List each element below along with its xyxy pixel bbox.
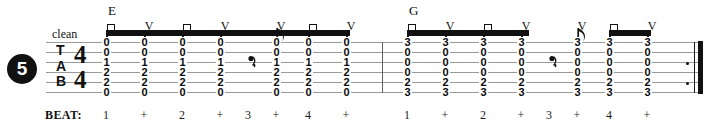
downstroke-icon bbox=[107, 24, 115, 30]
beat-label: 4 bbox=[604, 108, 614, 123]
fret-number-E: 3 bbox=[573, 87, 582, 97]
time-signature: 4 4 bbox=[74, 42, 87, 92]
tab-clef-letter-a: A bbox=[56, 59, 66, 75]
upstroke-icon: V bbox=[347, 22, 356, 31]
downstroke-icon bbox=[408, 24, 416, 30]
fret-number-E: 0 bbox=[140, 87, 149, 97]
exercise-number-badge: 5 bbox=[7, 54, 37, 84]
barline bbox=[382, 42, 383, 93]
upstroke-icon: V bbox=[221, 22, 230, 31]
upstroke-icon: V bbox=[145, 22, 154, 31]
repeat-barline-thick bbox=[698, 41, 703, 94]
fret-number-E: 0 bbox=[342, 87, 351, 97]
fret-number-E: 3 bbox=[479, 87, 488, 97]
downstroke-icon bbox=[484, 24, 492, 30]
upstroke-icon: V bbox=[522, 22, 531, 31]
repeat-dot-2 bbox=[686, 82, 689, 85]
fret-number-E: 0 bbox=[178, 87, 187, 97]
beat-label: 3 bbox=[243, 108, 253, 123]
beat-label: + bbox=[139, 108, 149, 123]
fret-number-E: 3 bbox=[403, 87, 412, 97]
beat-label: + bbox=[516, 108, 526, 123]
beat-label: 3 bbox=[544, 108, 554, 123]
beat-label: + bbox=[572, 108, 582, 123]
beat-label: + bbox=[440, 108, 450, 123]
beat-label: + bbox=[341, 108, 351, 123]
fret-number-E: 3 bbox=[441, 87, 450, 97]
rhythm-beam bbox=[407, 30, 529, 36]
downstroke-icon bbox=[610, 24, 618, 30]
beat-label: + bbox=[215, 108, 225, 123]
fret-number-E: 3 bbox=[605, 87, 614, 97]
downstroke-icon bbox=[309, 24, 317, 30]
fret-number-E: 0 bbox=[272, 87, 281, 97]
tab-clef-letter-t: T bbox=[56, 43, 66, 59]
fret-number-E: 0 bbox=[216, 87, 225, 97]
beat-label: 1 bbox=[402, 108, 412, 123]
fret-number-E: 3 bbox=[517, 87, 526, 97]
beat-label: + bbox=[271, 108, 281, 123]
time-signature-numerator: 4 bbox=[74, 42, 87, 67]
repeat-barline-thin bbox=[694, 42, 695, 93]
quarter-rest bbox=[248, 55, 260, 77]
tab-clef: T A B bbox=[56, 43, 66, 90]
upstroke-icon: V bbox=[648, 22, 657, 31]
beat-label: + bbox=[642, 108, 652, 123]
performance-direction: clean bbox=[52, 27, 77, 42]
fret-number-E: 0 bbox=[304, 87, 313, 97]
repeat-dot-1 bbox=[686, 62, 689, 65]
tab-sheet: 5 clean T A B 4 4 BEAT: E001220V00122000… bbox=[0, 0, 715, 126]
beat-label: 2 bbox=[478, 108, 488, 123]
tab-clef-letter-b: B bbox=[56, 74, 66, 90]
beat-label: 1 bbox=[101, 108, 111, 123]
beat-label: 4 bbox=[303, 108, 313, 123]
beat-label: 2 bbox=[177, 108, 187, 123]
beat-ruler-title: BEAT: bbox=[45, 108, 82, 123]
fret-number-E: 0 bbox=[102, 87, 111, 97]
quarter-rest bbox=[549, 55, 561, 77]
time-signature-denominator: 4 bbox=[74, 67, 87, 92]
upstroke-icon: V bbox=[446, 22, 455, 31]
downstroke-icon bbox=[183, 24, 191, 30]
fret-number-E: 3 bbox=[643, 87, 652, 97]
